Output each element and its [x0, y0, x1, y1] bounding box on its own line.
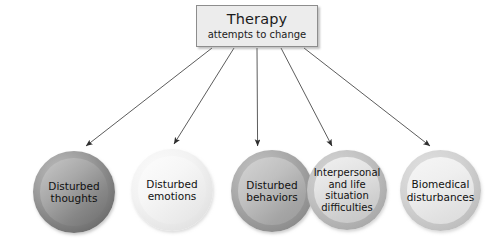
node-disturbed-thoughts: Disturbed thoughts — [33, 151, 115, 233]
node-label: Interpersonal and life situation difficu… — [308, 167, 387, 213]
therapy-root-box: Therapy attempts to change — [196, 5, 318, 47]
node-label: Disturbed emotions — [140, 178, 203, 203]
arrow-to-disturbed-behaviors — [257, 48, 258, 146]
node-label: Disturbed behaviors — [240, 179, 304, 204]
node-disturbed-behaviors: Disturbed behaviors — [231, 150, 313, 232]
node-label: Disturbed thoughts — [42, 180, 105, 205]
arrow-to-disturbed-thoughts — [86, 48, 212, 146]
arrow-to-biomedical-disturbances — [304, 48, 430, 146]
node-biomedical-disturbances: Biomedical disturbances — [400, 150, 481, 231]
node-disturbed-emotions: Disturbed emotions — [131, 149, 213, 231]
diagram-canvas: Therapy attempts to change Disturbed tho… — [0, 0, 493, 245]
node-label: Biomedical disturbances — [401, 178, 481, 203]
arrow-to-disturbed-emotions — [174, 48, 234, 144]
node-interpersonal-life-situation-difficulties: Interpersonal and life situation difficu… — [307, 150, 387, 230]
therapy-title: Therapy — [227, 12, 287, 27]
arrow-to-interpersonal-life-situation-difficulties — [281, 48, 332, 146]
therapy-subtitle: attempts to change — [208, 29, 307, 40]
